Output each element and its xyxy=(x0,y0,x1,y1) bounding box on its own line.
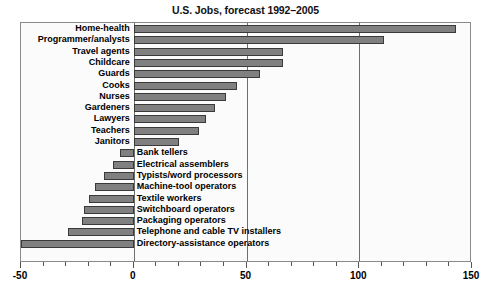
axis-tick-label: -50 xyxy=(13,270,27,281)
bar xyxy=(120,149,134,157)
bar xyxy=(134,59,283,67)
bar xyxy=(82,217,134,225)
bar xyxy=(134,48,283,56)
tick--40 xyxy=(43,262,44,266)
bar xyxy=(89,195,134,203)
category-label: Electrical assemblers xyxy=(137,159,477,170)
tick-140 xyxy=(448,262,449,266)
bar xyxy=(134,115,206,123)
category-label: Guards xyxy=(0,68,130,79)
chart-title: U.S. Jobs, forecast 1992–2005 xyxy=(0,4,491,16)
category-label: Home-health xyxy=(0,23,130,34)
category-label: Packaging operators xyxy=(137,215,477,226)
category-label: Directory-assistance operators xyxy=(137,238,477,249)
category-label: Bank tellers xyxy=(137,147,477,158)
bar xyxy=(134,82,238,90)
tick-70 xyxy=(291,262,292,266)
category-label: Programmer/analysts xyxy=(0,34,130,45)
tick-80 xyxy=(313,262,314,266)
tick-50 xyxy=(246,262,247,268)
bar xyxy=(134,70,260,78)
axis-tick-label: 50 xyxy=(240,270,251,281)
category-label: Textile workers xyxy=(137,193,477,204)
bar xyxy=(95,183,133,191)
bar xyxy=(134,104,215,112)
tick-0 xyxy=(133,262,134,268)
category-label: Nurses xyxy=(0,91,130,102)
axis-tick-label: 150 xyxy=(463,270,480,281)
category-label: Teachers xyxy=(0,125,130,136)
bar xyxy=(134,138,179,146)
category-label: Cooks xyxy=(0,80,130,91)
category-label: Childcare xyxy=(0,57,130,68)
x-axis-ticks xyxy=(20,262,471,270)
category-label: Janitors xyxy=(0,136,130,147)
tick-90 xyxy=(336,262,337,266)
tick-10 xyxy=(155,262,156,266)
bar xyxy=(113,161,133,169)
tick--10 xyxy=(110,262,111,266)
tick-30 xyxy=(200,262,201,266)
tick-130 xyxy=(426,262,427,266)
tick--20 xyxy=(88,262,89,266)
x-axis-tick-labels: -50050100150 xyxy=(0,270,491,286)
bar xyxy=(68,228,133,236)
bar xyxy=(134,36,384,44)
tick--50 xyxy=(20,262,21,268)
bar xyxy=(134,25,456,33)
bar xyxy=(84,206,134,214)
tick--30 xyxy=(65,262,66,266)
bar xyxy=(134,127,199,135)
tick-20 xyxy=(178,262,179,266)
tick-120 xyxy=(403,262,404,266)
category-label: Typists/word processors xyxy=(137,170,477,181)
chart-container: U.S. Jobs, forecast 1992–2005 Home-healt… xyxy=(0,0,491,298)
category-label: Gardeners xyxy=(0,102,130,113)
category-label: Lawyers xyxy=(0,113,130,124)
tick-40 xyxy=(223,262,224,266)
tick-150 xyxy=(471,262,472,268)
bar xyxy=(134,93,226,101)
category-label: Travel agents xyxy=(0,46,130,57)
bar xyxy=(21,240,134,248)
tick-60 xyxy=(268,262,269,266)
axis-tick-label: 0 xyxy=(130,270,136,281)
tick-100 xyxy=(358,262,359,268)
category-label: Telephone and cable TV installers xyxy=(137,226,477,237)
axis-tick-label: 100 xyxy=(350,270,367,281)
category-label: Switchboard operators xyxy=(137,204,477,215)
bar xyxy=(104,172,133,180)
category-label: Machine-tool operators xyxy=(137,181,477,192)
tick-110 xyxy=(381,262,382,266)
